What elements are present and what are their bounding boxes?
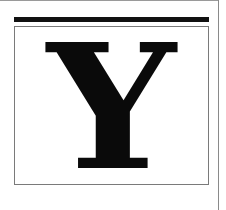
header-bar (14, 17, 209, 22)
letter-glyph: Y (47, 26, 176, 185)
letter-glyph-container: Y (15, 27, 208, 184)
letter-tile: Y (14, 26, 209, 185)
side-rule-line (218, 0, 219, 210)
top-rule-line (0, 0, 219, 1)
